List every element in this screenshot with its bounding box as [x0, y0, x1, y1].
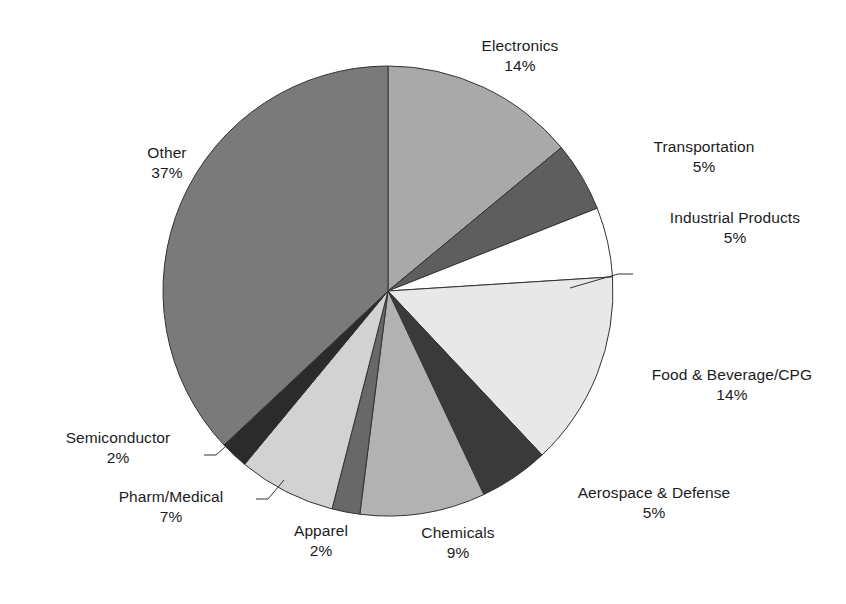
slice-label-other-value: 37% [112, 163, 222, 183]
slice-label-electronics-name: Electronics [430, 36, 610, 56]
slice-label-aerospace-defense-value: 5% [556, 503, 752, 523]
pie-slice-group [163, 66, 613, 516]
slice-label-aerospace-defense: Aerospace & Defense 5% [556, 483, 752, 524]
slice-label-pharm-medical: Pharm/Medical 7% [86, 487, 256, 528]
slice-label-apparel-value: 2% [258, 541, 384, 561]
slice-label-pharm-medical-value: 7% [86, 507, 256, 527]
slice-label-pharm-medical-name: Pharm/Medical [86, 487, 256, 507]
slice-label-chemicals: Chemicals 9% [394, 523, 522, 564]
slice-label-transportation: Transportation 5% [614, 137, 794, 178]
slice-label-aerospace-defense-name: Aerospace & Defense [556, 483, 752, 503]
slice-label-industrial-products: Industrial Products 5% [630, 208, 840, 249]
slice-label-transportation-name: Transportation [614, 137, 794, 157]
pie-chart: Electronics 14% Transportation 5% Indust… [0, 0, 846, 604]
slice-label-transportation-value: 5% [614, 157, 794, 177]
slice-label-industrial-products-value: 5% [630, 228, 840, 248]
slice-label-apparel: Apparel 2% [258, 521, 384, 562]
slice-label-industrial-products-name: Industrial Products [630, 208, 840, 228]
slice-label-chemicals-name: Chemicals [394, 523, 522, 543]
slice-label-electronics-value: 14% [430, 56, 610, 76]
slice-label-other: Other 37% [112, 143, 222, 184]
slice-label-semiconductor-name: Semiconductor [30, 428, 206, 448]
slice-label-food-beverage-cpg: Food & Beverage/CPG 14% [624, 365, 840, 406]
slice-label-electronics: Electronics 14% [430, 36, 610, 77]
slice-label-food-beverage-cpg-name: Food & Beverage/CPG [624, 365, 840, 385]
slice-label-food-beverage-cpg-value: 14% [624, 385, 840, 405]
slice-label-semiconductor-value: 2% [30, 448, 206, 468]
slice-label-semiconductor: Semiconductor 2% [30, 428, 206, 469]
slice-label-other-name: Other [112, 143, 222, 163]
slice-label-chemicals-value: 9% [394, 543, 522, 563]
slice-label-apparel-name: Apparel [258, 521, 384, 541]
